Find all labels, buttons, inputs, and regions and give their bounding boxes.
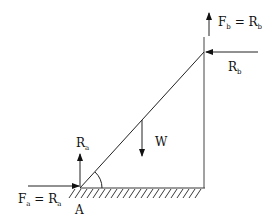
ra-label: Ra (76, 136, 89, 152)
w-label: W (155, 135, 168, 149)
ladder-fbd-diagram: Fb = Rb Rb Ra W Fa = Ra A (0, 0, 271, 219)
angle-arc (95, 172, 102, 188)
fb-label: Fb = Rb (218, 15, 263, 31)
rb-label: Rb (228, 60, 242, 76)
ground-hatching (69, 188, 205, 198)
fa-label: Fa = Ra (18, 192, 61, 208)
point-a-label: A (74, 203, 84, 217)
